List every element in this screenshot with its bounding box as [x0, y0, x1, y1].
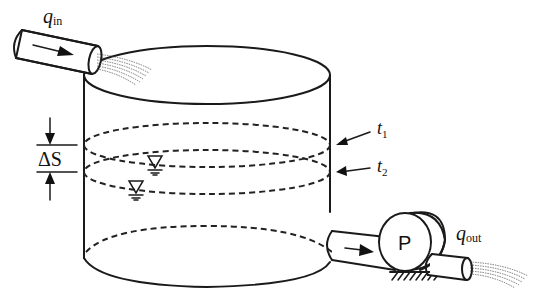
tank-top-rim: [84, 46, 330, 104]
time-t2-pointer: t2: [336, 156, 388, 178]
tank-diagram: ΔS t1 t2 qin: [0, 0, 544, 307]
tank: [84, 46, 332, 287]
time-t1-pointer: t1: [336, 118, 388, 145]
inflow-pipe: qin: [14, 5, 152, 85]
outflow-label: qout: [456, 222, 482, 245]
arrowhead-down-icon: [45, 133, 55, 145]
tank-bottom-front: [84, 258, 330, 287]
tank-bottom-back: [86, 226, 332, 252]
outflow-spray: [470, 262, 528, 288]
t2-label: t2: [377, 156, 388, 178]
arrowhead-up-icon: [45, 172, 55, 184]
arrowhead-icon: [336, 166, 347, 176]
delta-s-dimension: ΔS: [37, 118, 77, 200]
discharge-pipe-mouth: [462, 258, 472, 280]
water-level-t1: [84, 123, 330, 167]
pump-label: P: [398, 232, 411, 254]
delta-s-label: ΔS: [38, 148, 62, 170]
inflow-label: qin: [43, 5, 62, 28]
arrowhead-icon: [336, 137, 348, 145]
water-level-t2: [84, 150, 330, 194]
t1-label: t1: [377, 118, 388, 140]
